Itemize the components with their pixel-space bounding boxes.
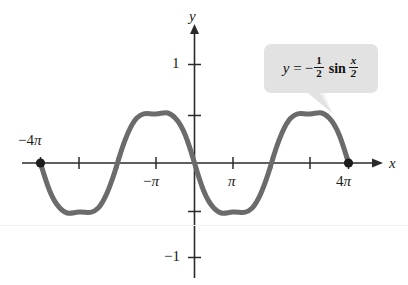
endpoint-left: [36, 158, 45, 167]
fraction-x-denominator: 2: [349, 68, 359, 80]
x-axis-label: x: [389, 156, 396, 171]
x-tick-pi-pi: π: [228, 173, 236, 189]
fraction-one-half: 1 2: [314, 55, 324, 79]
x-tick-neg4pi-pi: π: [34, 132, 42, 148]
equation-y: y: [283, 60, 291, 77]
x-tick-negpi-pi: π: [151, 173, 159, 189]
equation-callout-text: y = − 1 2 sin x 2: [264, 44, 378, 93]
endpoint-right: [344, 158, 353, 167]
graph-figure: x y −4π −π π 4π 1 −1 y = − 1 2 sin x 2: [0, 0, 408, 285]
y-tick-label-1: 1: [172, 56, 180, 71]
y-tick-label-neg-1: −1: [164, 249, 180, 264]
x-tick-label-4pi: 4π: [336, 174, 351, 189]
x-tick-label-pi: π: [228, 174, 236, 189]
equation-callout: y = − 1 2 sin x 2: [264, 44, 378, 93]
x-axis: [22, 159, 383, 168]
equation-minus: −: [305, 60, 313, 77]
scan-artifact: [0, 225, 408, 226]
x-tick-label-neg-4pi: −4π: [18, 133, 41, 148]
x-tick-4pi-coef: 4: [336, 173, 344, 189]
equation-equals: =: [290, 60, 304, 77]
fraction-one-half-denominator: 2: [314, 68, 324, 80]
equation-sin: sin: [325, 61, 348, 77]
x-tick-4pi-pi: π: [344, 173, 352, 189]
plot-canvas: [0, 0, 408, 285]
x-tick-neg4pi-coef: −4: [18, 132, 34, 148]
y-axis-label: y: [189, 9, 196, 24]
fraction-x-over-two: x 2: [349, 55, 359, 79]
x-tick-label-neg-pi: −π: [143, 174, 159, 189]
